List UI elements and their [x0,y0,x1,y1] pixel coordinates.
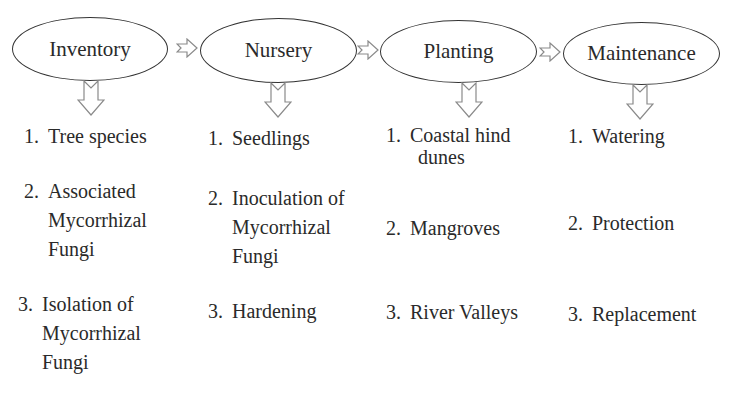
item-text: Protection [592,212,674,235]
item-text: Isolation of [42,293,134,316]
item-number: 2. [208,187,223,210]
item-text: dunes [418,146,465,169]
right-arrow-icon [539,42,561,62]
item-number: 1. [24,125,39,148]
item-text: Mangroves [410,217,500,240]
down-arrow-icon [455,82,483,118]
stage-nursery: Nursery [200,18,357,83]
item-text: Fungi [42,351,89,374]
item-text: Mycorrhizal [232,216,331,239]
item-text: Hardening [232,300,316,323]
stage-label: Planting [423,39,493,64]
stage-planting: Planting [380,20,537,83]
item-number: 1. [386,124,401,147]
item-number: 3. [568,303,583,326]
item-text: Mycorrhizal [48,209,147,232]
stage-label: Inventory [49,37,131,62]
stage-label: Nursery [245,38,313,63]
item-text: Fungi [48,238,95,261]
item-text: Watering [592,125,665,148]
right-arrow-icon [176,38,198,58]
down-arrow-icon [264,82,292,118]
item-number: 1. [568,125,583,148]
stage-maintenance: Maintenance [563,22,720,85]
down-arrow-icon [77,80,105,116]
item-text: River Valleys [410,301,518,324]
down-arrow-icon [626,84,654,120]
item-number: 3. [18,293,33,316]
item-text: Mycorrhizal [42,322,141,345]
item-number: 3. [386,301,401,324]
item-number: 2. [386,217,401,240]
item-number: 3. [208,300,223,323]
item-number: 1. [208,127,223,150]
item-text: Inoculation of [232,187,345,210]
right-arrow-icon [357,40,379,60]
item-number: 2. [568,212,583,235]
item-text: Replacement [592,303,696,326]
item-text: Seedlings [232,127,310,150]
item-number: 2. [24,180,39,203]
stage-inventory: Inventory [12,17,168,81]
item-text: Associated [48,180,136,203]
item-text: Tree species [48,125,147,148]
stage-label: Maintenance [587,41,695,66]
item-text: Coastal hind [410,124,511,147]
item-text: Fungi [232,245,279,268]
